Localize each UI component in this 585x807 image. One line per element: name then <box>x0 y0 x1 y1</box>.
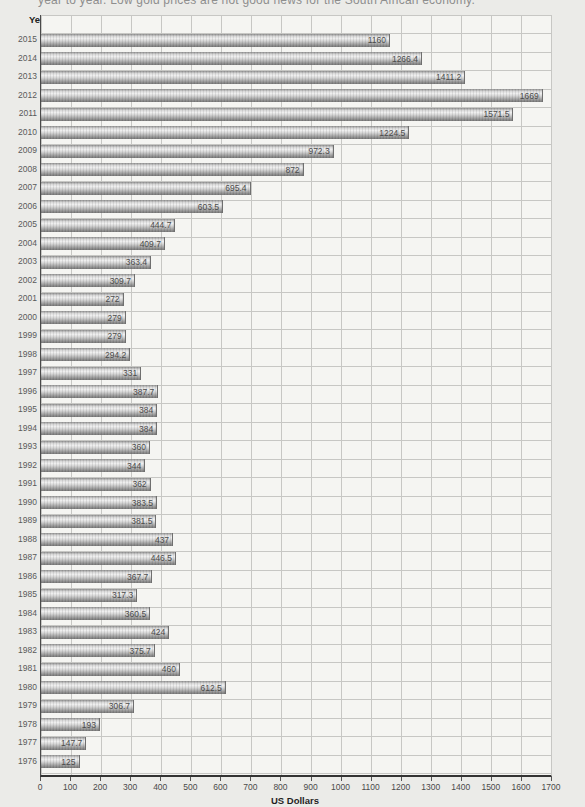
year-label: 1980 <box>0 679 37 698</box>
bar-row: 1976125 <box>41 753 551 772</box>
x-tick-label: 300 <box>123 782 137 792</box>
x-tick-mark <box>250 777 251 781</box>
bar: 306.7 <box>41 700 134 713</box>
value-label: 387.7 <box>133 387 154 397</box>
bar-row: 20111571.5 <box>41 105 551 124</box>
year-label: 1997 <box>0 364 37 383</box>
value-label: 363.4 <box>126 257 147 267</box>
bar-row: 2005444.7 <box>41 216 551 235</box>
value-label: 695.4 <box>225 183 246 193</box>
x-tick-mark <box>401 777 402 781</box>
bar: 360.5 <box>41 607 150 620</box>
year-label: 2014 <box>0 50 37 69</box>
year-label: 1991 <box>0 475 37 494</box>
bar: 1571.5 <box>41 108 513 121</box>
year-label: 2002 <box>0 272 37 291</box>
bar-row: 20151160 <box>41 31 551 50</box>
x-tick-mark <box>371 777 372 781</box>
value-label: 384 <box>139 405 153 415</box>
year-label: 1978 <box>0 716 37 735</box>
value-label: 147.7 <box>61 738 82 748</box>
x-tick-label: 1200 <box>391 782 410 792</box>
bar-row: 1984360.5 <box>41 605 551 624</box>
value-label: 272 <box>105 294 119 304</box>
year-label: 1985 <box>0 586 37 605</box>
year-label: 1988 <box>0 531 37 550</box>
year-label: 1982 <box>0 642 37 661</box>
bar: 612.5 <box>41 681 226 694</box>
value-label: 872 <box>285 165 299 175</box>
year-label: 2006 <box>0 198 37 217</box>
year-label: 1984 <box>0 605 37 624</box>
bar-row: 1992344 <box>41 457 551 476</box>
year-label: 1992 <box>0 457 37 476</box>
bar: 460 <box>41 663 180 676</box>
value-label: 1224.5 <box>379 128 405 138</box>
bar: 1411.2 <box>41 71 465 84</box>
bar: 384 <box>41 404 157 417</box>
bar: 309.7 <box>41 274 135 287</box>
x-axis-title: US Dollars <box>40 795 550 806</box>
x-tick-mark <box>130 777 131 781</box>
bar-row: 1999279 <box>41 327 551 346</box>
bar-row: 1995384 <box>41 401 551 420</box>
year-label: 1979 <box>0 697 37 716</box>
year-label: 1995 <box>0 401 37 420</box>
year-label: 2011 <box>0 105 37 124</box>
bar-row: 1996387.7 <box>41 383 551 402</box>
value-label: 384 <box>139 424 153 434</box>
bar-row: 2004409.7 <box>41 235 551 254</box>
bar-row: 1979306.7 <box>41 697 551 716</box>
bar-row: 1982375.7 <box>41 642 551 661</box>
bar-row: 20131411.2 <box>41 68 551 87</box>
bar: 193 <box>41 718 100 731</box>
bar: 444.7 <box>41 219 175 232</box>
value-label: 1266.4 <box>392 54 418 64</box>
value-label: 360 <box>132 442 146 452</box>
year-label: 1994 <box>0 420 37 439</box>
value-label: 193 <box>82 720 96 730</box>
bar-row: 20141266.4 <box>41 50 551 69</box>
year-label: 2015 <box>0 31 37 50</box>
x-tick-mark <box>100 777 101 781</box>
value-label: 367.7 <box>127 572 148 582</box>
bar: 331 <box>41 367 141 380</box>
x-tick-label: 200 <box>93 782 107 792</box>
x-tick-mark <box>521 777 522 781</box>
x-tick-label: 0 <box>38 782 43 792</box>
value-label: 1571.5 <box>483 109 509 119</box>
bar-row: 1991362 <box>41 475 551 494</box>
value-label: 344 <box>127 461 141 471</box>
x-tick-label: 700 <box>243 782 257 792</box>
x-tick-mark <box>280 777 281 781</box>
x-tick-mark <box>551 777 552 781</box>
value-label: 603.5 <box>198 202 219 212</box>
bar-row: 1990383.5 <box>41 494 551 513</box>
bar-row: 20121669 <box>41 87 551 106</box>
year-label: 2013 <box>0 68 37 87</box>
bar-row: 1986367.7 <box>41 568 551 587</box>
value-label: 383.5 <box>132 498 153 508</box>
x-tick-label: 900 <box>303 782 317 792</box>
x-tick-mark <box>40 777 41 781</box>
bar-row: 20101224.5 <box>41 124 551 143</box>
value-label: 362 <box>132 479 146 489</box>
value-label: 360.5 <box>125 609 146 619</box>
x-tick-label: 500 <box>183 782 197 792</box>
value-label: 972.3 <box>308 146 329 156</box>
bar-row: 1985317.3 <box>41 586 551 605</box>
bar: 360 <box>41 441 150 454</box>
year-label: 2012 <box>0 87 37 106</box>
bar-row: 2009972.3 <box>41 142 551 161</box>
value-label: 424 <box>151 627 165 637</box>
bar: 362 <box>41 478 151 491</box>
value-label: 294.2 <box>105 350 126 360</box>
bar-row: 1997331 <box>41 364 551 383</box>
year-label: 1976 <box>0 753 37 772</box>
value-label: 309.7 <box>110 276 131 286</box>
value-label: 331 <box>123 368 137 378</box>
bar: 367.7 <box>41 570 152 583</box>
bar: 1669 <box>41 89 543 102</box>
bar: 383.5 <box>41 496 157 509</box>
x-tick-mark <box>220 777 221 781</box>
